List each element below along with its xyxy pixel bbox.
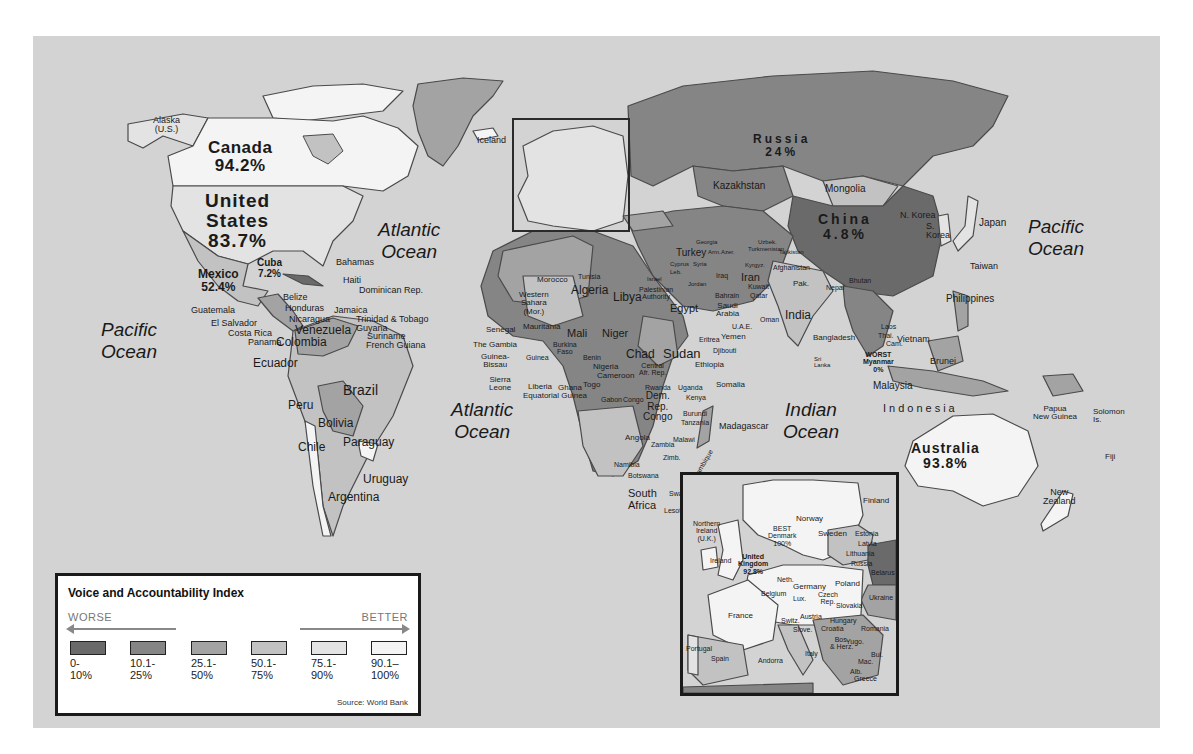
label-china: China 4.8%: [818, 212, 872, 241]
label-botswana: Botswana: [628, 472, 659, 479]
legend-swatch: [130, 641, 166, 655]
inset-label-slove: Slove.: [793, 626, 812, 633]
europe-inset-map: Finland Norway Sweden Estonia Latvia Lit…: [680, 472, 899, 696]
greenland-shape: [413, 78, 503, 166]
label-french-guiana: French Guiana: [366, 341, 426, 350]
label-uruguay: Uruguay: [363, 473, 408, 486]
label-oman: Oman: [760, 316, 779, 323]
label-palestinian-authority: Palestinian Authority: [639, 286, 673, 301]
label-cyprus: Cyprus: [670, 261, 689, 267]
label-bahrain: Bahrain: [715, 292, 739, 299]
label-guinea: Guinea: [526, 354, 549, 361]
ukraine-shape: [861, 585, 896, 620]
russia-shape: [628, 71, 1008, 186]
label-central-afr-rep: Central Afr. Rep.: [639, 362, 666, 377]
legend-item-2: 25.1- 50%: [191, 641, 231, 681]
label-uae: U.A.E.: [732, 323, 752, 330]
label-kenya: Kenya: [686, 394, 706, 401]
inset-label-france: France: [728, 612, 753, 620]
label-turkey: Turkey: [676, 248, 706, 259]
label-honduras: Honduras: [285, 304, 324, 313]
label-myanmar: WORST Myanmar 0%: [863, 351, 894, 373]
legend-title: Voice and Accountability Index: [68, 586, 244, 600]
inset-label-portugal: Portugal: [686, 645, 712, 652]
label-benin: Benin: [583, 354, 601, 361]
label-qatar: Qatar: [750, 292, 768, 299]
label-algeria: Algeria: [571, 284, 608, 297]
arrow-right-icon: [300, 628, 404, 630]
label-mexico: Mexico 52.4%: [198, 268, 239, 293]
label-iran: Iran: [741, 272, 760, 284]
label-uzbek: Uzbek.: [758, 239, 777, 245]
label-canada: Canada 94.2%: [208, 139, 272, 175]
inset-label-belgium: Belgium: [761, 590, 786, 597]
inset-label-yugo: Yugo.: [846, 638, 864, 645]
legend-worse-label: WORSE: [68, 611, 112, 623]
inset-label-mac: Mac.: [858, 658, 873, 665]
label-kuwait: Kuwait: [748, 283, 769, 290]
label-kazakhstan: Kazakhstan: [713, 181, 765, 192]
inset-label-latvia: Latvia: [858, 540, 877, 547]
label-cameroon: Cameroon: [597, 372, 634, 380]
label-indonesia: Indonesia: [883, 403, 958, 415]
ocean-label-atlantic-north: Atlantic Ocean: [378, 219, 440, 263]
label-yemen: Yemen: [721, 333, 746, 341]
label-png: Papua New Guinea: [1033, 405, 1077, 422]
label-guatemala: Guatemala: [191, 306, 235, 315]
world-map: Pacific Ocean Atlantic Ocean Atlantic Oc…: [33, 36, 1160, 728]
legend-swatch-label: 0- 10%: [70, 657, 110, 681]
inset-label-switz: Switz.: [781, 617, 800, 624]
inset-label-poland: Poland: [835, 580, 860, 588]
label-pak: Pak.: [793, 280, 809, 288]
label-united-states: United States 83.7%: [205, 191, 270, 251]
label-syria: Syria: [693, 261, 707, 267]
label-leb: Leb.: [670, 269, 682, 275]
canada-shape: [168, 116, 418, 191]
label-senegal: Senegal: [486, 326, 515, 334]
label-n-korea: N. Korea: [900, 211, 936, 220]
label-burundi: Burundi: [683, 410, 707, 417]
japan-shape: [953, 196, 978, 251]
label-drc: Dem. Rep. Congo: [643, 391, 672, 423]
label-rwanda: Rwanda: [645, 384, 671, 391]
label-chad: Chad: [626, 348, 655, 361]
label-bhutan: Bhutan: [849, 277, 871, 284]
label-jordan: Jordan: [688, 281, 706, 287]
label-cuba: Cuba 7.2%: [257, 258, 282, 279]
label-peru: Peru: [288, 399, 313, 412]
legend-swatch: [251, 641, 287, 655]
inset-label-italy: Italy: [805, 650, 818, 657]
label-tanzania: Tanzania: [681, 419, 709, 426]
legend-swatch: [311, 641, 347, 655]
inset-label-neth: Neth.: [777, 576, 794, 583]
label-japan: Japan: [979, 218, 1006, 229]
label-south-africa: South Africa: [628, 488, 657, 511]
label-laos: Laos: [881, 323, 896, 330]
label-taiwan: Taiwan: [970, 262, 998, 271]
label-angola: Angola: [625, 434, 650, 442]
label-afghanistan: Afghanistan: [773, 264, 810, 271]
label-argentina: Argentina: [328, 491, 379, 504]
legend-source: Source: World Bank: [337, 698, 408, 707]
label-burkina-faso: Burkina Faso: [553, 341, 577, 356]
inset-label-finland: Finland: [863, 497, 889, 505]
label-india: India: [785, 309, 811, 322]
legend-swatch: [70, 641, 106, 655]
label-ethiopia: Ethiopia: [695, 361, 724, 369]
inset-label-austria: Austria: [800, 613, 822, 620]
inset-label-estonia: Estonia: [855, 530, 878, 537]
ocean-label-atlantic-south: Atlantic Ocean: [451, 399, 513, 443]
label-egypt: Egypt: [670, 303, 698, 315]
inset-label-russia: Russia: [851, 560, 872, 567]
label-djibouti: Djibouti: [713, 347, 736, 354]
label-morocco: Morocco: [537, 276, 568, 284]
inset-label-united-kingdom: United Kingdom 92.8%: [738, 553, 768, 575]
inset-label-greece: Greece: [854, 675, 877, 682]
label-tajikistan: Tajikistan: [779, 249, 804, 255]
label-dominican-rep: Dominican Rep.: [359, 286, 423, 295]
label-namibia: Namibia: [614, 461, 640, 468]
label-equatorial-guinea: Equatorial Guinea: [523, 392, 587, 400]
label-tunisia: Tunisia: [578, 273, 600, 280]
legend-swatch-label: 25.1- 50%: [191, 657, 231, 681]
inset-label-croatia: Croatia: [821, 625, 844, 632]
